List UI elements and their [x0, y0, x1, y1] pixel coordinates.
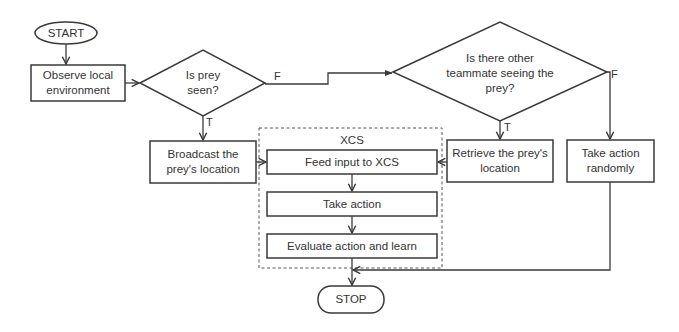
broadcast-label: Broadcast the prey's location: [154, 142, 252, 182]
random-label: Take action randomly: [571, 141, 650, 181]
take-action-label: Take action: [268, 193, 436, 215]
edge-label-prey-true: T: [206, 116, 213, 128]
prey-seen-label: Is prey seen?: [175, 67, 231, 99]
stop-label: STOP: [318, 286, 384, 313]
observe-label: Observe local environment: [35, 66, 121, 100]
start-label: START: [35, 22, 97, 44]
teammate-label: Is there other teammate seeing the prey?: [445, 50, 555, 96]
evaluate-label: Evaluate action and learn: [268, 235, 436, 257]
retrieve-label: Retrieve the prey's location: [451, 141, 549, 181]
xcs-group-label: XCS: [330, 133, 374, 148]
edge-prey-false: [265, 73, 392, 84]
feed-label: Feed input to XCS: [268, 151, 436, 173]
edge-teammate-false: [607, 72, 610, 139]
edge-label-prey-false: F: [274, 70, 281, 82]
edge-label-teammate-true: T: [504, 121, 511, 133]
edge-label-teammate-false: F: [611, 68, 618, 80]
